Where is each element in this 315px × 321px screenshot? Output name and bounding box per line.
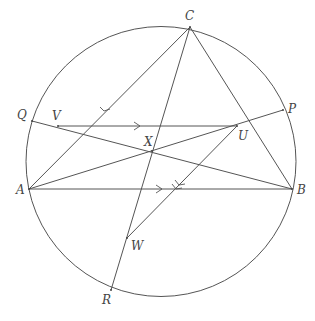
point-a (28, 188, 30, 190)
label-c: C (185, 9, 194, 23)
label-p: P (287, 102, 297, 116)
point-w (126, 237, 128, 239)
geometry-diagram: C A B Q P R V U X W (0, 0, 315, 321)
vertex-points (28, 26, 293, 291)
label-q: Q (17, 108, 27, 122)
segments (29, 27, 292, 290)
segment-qb (32, 121, 292, 189)
circumcircle (26, 27, 296, 297)
label-a: A (15, 183, 25, 197)
label-x: X (143, 135, 153, 149)
point-v (57, 125, 59, 127)
point-c (189, 26, 191, 28)
point-r (110, 289, 112, 291)
label-v: V (52, 109, 62, 123)
point-x (151, 150, 153, 152)
label-w: W (131, 239, 145, 253)
point-b (291, 188, 293, 190)
point-q (31, 120, 33, 122)
point-u (236, 125, 238, 127)
point-labels: C A B Q P R V U X W (15, 9, 306, 307)
segment-cb (190, 27, 292, 189)
label-b: B (296, 183, 306, 197)
label-r: R (101, 293, 111, 307)
label-u: U (238, 129, 249, 143)
point-p (282, 109, 284, 111)
